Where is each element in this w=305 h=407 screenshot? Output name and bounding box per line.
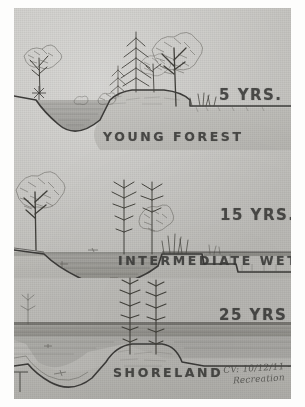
caption-intermediate-wetland: INTERMEDIATE WETLAND xyxy=(118,253,291,268)
years-label-panel-1: 5 YRS. xyxy=(219,86,283,104)
caption-young-forest: YOUNG FOREST xyxy=(103,129,244,144)
scan-page: 5 YRS. YOUNG FOREST 15 YRS. INTERMEDIATE… xyxy=(0,0,305,407)
years-label-panel-3: 25 YRS xyxy=(219,306,287,324)
archival-note: CV: 10/12/11 - virg Recreation xyxy=(223,360,291,387)
drawing-plate: 5 YRS. YOUNG FOREST 15 YRS. INTERMEDIATE… xyxy=(14,8,291,399)
years-label-panel-2: 15 YRS. xyxy=(220,206,291,224)
caption-shoreland: SHORELAND xyxy=(113,365,223,380)
